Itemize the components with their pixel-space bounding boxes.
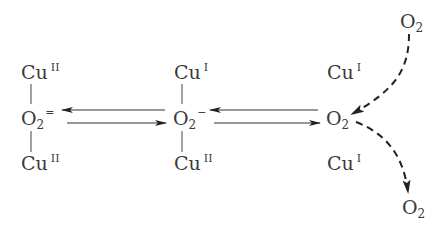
dashed-arrow-o2-desorption [356,122,408,192]
left-bottom-cu: CuII [21,152,59,174]
gas-o2-out: O2 [402,196,425,221]
left-column: CuII O2= CuII [21,61,59,174]
gas-o2-in: O2 [400,10,423,35]
left-top-cu: CuII [21,61,59,83]
middle-top-cu: CuI [174,61,208,83]
right-top-cu: CuI [327,61,361,83]
middle-center-superoxide: O2− [173,106,206,132]
reaction-diagram: CuII O2= CuII CuI O2− CuII CuI O2 CuI O2… [0,0,440,226]
right-bottom-cu: CuI [327,152,361,174]
middle-column: CuI O2− CuII [173,61,212,174]
left-center-peroxide: O2= [21,106,54,132]
right-column: CuI O2 CuI [326,61,361,174]
middle-bottom-cu: CuII [174,152,212,174]
right-center-o2: O2 [326,107,349,132]
dashed-arrow-o2-adsorption [352,34,409,114]
